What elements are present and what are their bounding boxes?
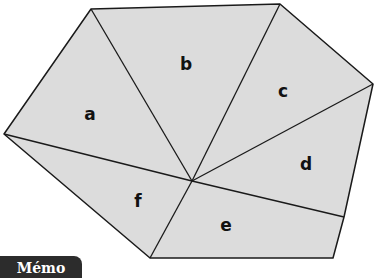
outer-polygon <box>4 4 373 258</box>
region-label-b: b <box>180 54 192 74</box>
region-label-f: f <box>134 191 142 211</box>
region-label-e: e <box>220 215 232 235</box>
region-label-d: d <box>300 154 312 174</box>
region-label-a: a <box>84 104 95 124</box>
memo-badge: Mémo <box>0 256 82 278</box>
region-label-c: c <box>278 81 288 101</box>
